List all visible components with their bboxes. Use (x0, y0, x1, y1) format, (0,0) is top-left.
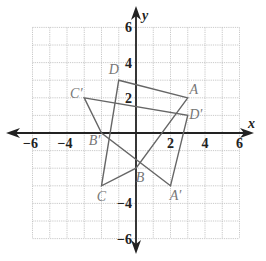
x-tick-label: 4 (202, 136, 209, 151)
vertex-label-a: A (188, 82, 198, 97)
y-tick-label: 6 (125, 20, 132, 35)
vertex-label-d: D (108, 62, 119, 77)
vertex-label-b: B (136, 170, 145, 185)
coordinate-plane-diagram: xy−6−4246642−4−6ABCDA′B′C′D′ (0, 0, 266, 261)
vertex-label-a-prime: A′ (169, 188, 183, 203)
x-axis-label: x (247, 116, 255, 131)
plot-svg: xy−6−4246642−4−6ABCDA′B′C′D′ (0, 0, 266, 261)
x-tick-label: 6 (236, 136, 243, 151)
axes (6, 6, 254, 254)
y-tick-label: −4 (117, 196, 132, 211)
x-tick-label: −4 (58, 136, 73, 151)
y-tick-label: 2 (125, 91, 132, 106)
y-axis-label: y (140, 8, 149, 23)
vertex-label-c-prime: C′ (70, 86, 83, 101)
vertex-label-c: C (97, 189, 107, 204)
x-tick-label: 2 (167, 136, 174, 151)
labels: xy−6−4246642−4−6ABCDA′B′C′D′ (23, 8, 255, 247)
x-tick-label: −6 (23, 136, 38, 151)
y-tick-label: 4 (125, 56, 132, 71)
vertex-label-d-prime: D′ (188, 107, 203, 122)
vertex-label-b-prime: B′ (89, 133, 102, 148)
y-tick-label: −6 (117, 232, 132, 247)
